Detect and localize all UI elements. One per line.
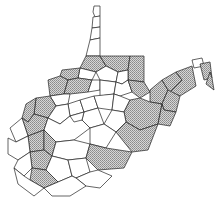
county-layer [8, 6, 214, 196]
county-brooke [92, 16, 100, 28]
county-marshall [86, 38, 100, 56]
west-virginia-county-map [0, 0, 221, 200]
county-harrison [100, 80, 116, 96]
county-greenbrier [86, 144, 132, 170]
county-tucker [128, 80, 150, 98]
county-preston [128, 56, 144, 82]
map-canvas [0, 0, 221, 200]
county-hancock [93, 6, 100, 17]
county-fayette [52, 140, 90, 160]
